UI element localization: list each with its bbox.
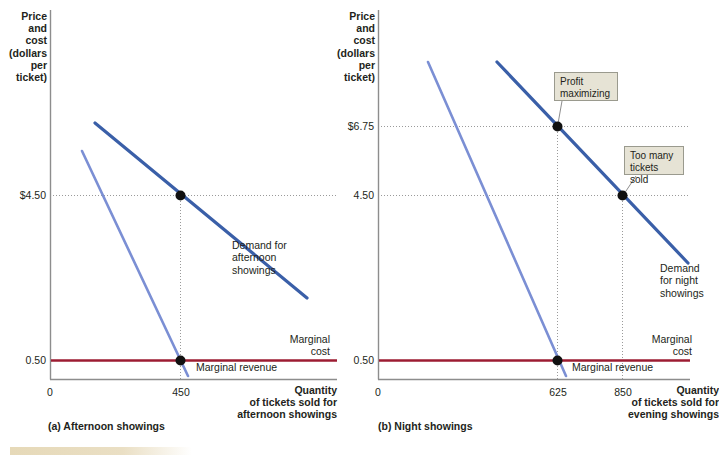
- panel-b-marginal-revenue-label: Marginal revenue: [572, 361, 702, 373]
- callout-profit-maximizing: Profit maximizing: [554, 72, 618, 101]
- panel-b-mr-mc-point-marker: [553, 356, 563, 366]
- panel-b-x-tick-0: 0: [364, 386, 392, 398]
- panel-b-marginal-revenue-line: [428, 62, 566, 376]
- panel-b-x-tick-625: 625: [540, 386, 576, 398]
- panel-b-y-tick-050: 0.50: [332, 354, 374, 366]
- panel-b-profit-max-marker: [553, 122, 563, 132]
- callout-too-many-tickets: Too many tickets sold: [624, 146, 684, 175]
- panel-b-caption: (b) Night showings: [378, 420, 473, 432]
- panel-a-mr-mc-point-marker: [176, 356, 186, 366]
- panel-b-y-tick-450: 4.50: [332, 189, 374, 201]
- panel-b-demand-label: Demand for night showings: [660, 262, 718, 299]
- panel-a-caption: (a) Afternoon showings: [48, 420, 165, 432]
- panel-a-x-tick-0: 0: [36, 386, 64, 398]
- panel-b-marginal-cost-label: Marginal cost: [618, 333, 692, 358]
- panel-a-demand-label: Demand for afternoon showings: [232, 239, 312, 276]
- panel-b-y-axis-label: Price and cost (dollars per ticket): [328, 10, 375, 83]
- bottom-decorative-bar: [10, 447, 192, 455]
- economics-figure: Price and cost (dollars per ticket) $4.5…: [0, 0, 719, 455]
- panel-a-price-point-marker: [176, 191, 186, 201]
- panel-a-y-axis-label: Price and cost (dollars per ticket): [0, 10, 47, 83]
- panel-a-x-tick-450: 450: [163, 386, 199, 398]
- panel-a-y-tick-450: $4.50: [8, 189, 46, 201]
- panel-b-y-tick-675: $6.75: [332, 120, 374, 132]
- panel-b-too-many-marker: [618, 191, 628, 201]
- panel-a-x-axis-label: Quantity of tickets sold for afternoon s…: [215, 384, 337, 421]
- panel-b-x-axis-label: Quantity of tickets sold for evening sho…: [597, 384, 719, 421]
- panel-a-marginal-revenue-label: Marginal revenue: [196, 361, 326, 373]
- panel-a-y-tick-050: 0.50: [8, 354, 46, 366]
- panel-a-marginal-cost-label: Marginal cost: [256, 333, 330, 358]
